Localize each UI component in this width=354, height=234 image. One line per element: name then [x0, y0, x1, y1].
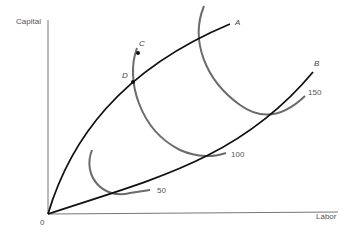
- x-axis: [48, 212, 338, 214]
- expansion-path-b: [48, 72, 313, 214]
- x-axis-label: Labor: [316, 212, 336, 221]
- origin-label: 0: [40, 218, 44, 227]
- diagram-canvas: [0, 0, 354, 234]
- path-b-label: B: [314, 59, 319, 68]
- isoquant-50: [89, 150, 150, 194]
- point-d: [131, 80, 135, 84]
- isoquant-100: [133, 48, 226, 156]
- point-c: [136, 51, 140, 55]
- point-d-label: D: [122, 71, 128, 80]
- isoquant-150-label: 150: [308, 88, 321, 97]
- point-c-label: C: [139, 39, 145, 48]
- isoquant-100-label: 100: [231, 150, 244, 159]
- path-a-label: A: [235, 18, 240, 27]
- isoquant-50-label: 50: [157, 186, 166, 195]
- y-axis-label: Capital: [16, 17, 41, 26]
